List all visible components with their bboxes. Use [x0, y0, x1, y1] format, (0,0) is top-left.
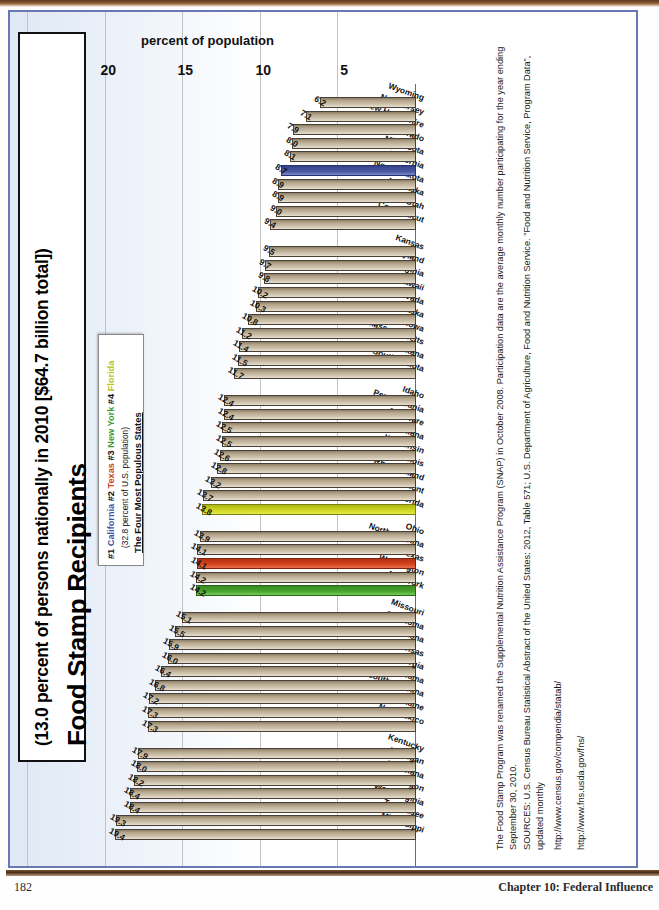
note-url-census: http://www.census.gov/compendia/statab/ [552, 24, 565, 850]
bar-south-dakota [234, 368, 416, 379]
bar-row: 7.1New Jersey [28, 111, 416, 122]
bar-row: 18.4West Virginia [28, 802, 416, 813]
bar-row: 7.9New Hampshire [28, 124, 416, 135]
bar-rhode-island [211, 477, 416, 488]
bar-row: 9.4Connecticut [28, 219, 416, 230]
legend-state-new-york: New York [106, 407, 116, 448]
page-top-edge-decoration [0, 0, 659, 7]
legend-rank-4: #4 [106, 394, 116, 404]
bar-alabama [155, 680, 416, 691]
bar-new-jersey [306, 111, 416, 122]
bar-row: 9.0Utah [28, 206, 416, 217]
bar-illinois [217, 463, 416, 474]
bar-indiana [222, 436, 416, 447]
bar-georgia [161, 666, 416, 677]
bar-kentucky [138, 748, 416, 759]
bar-oklahoma [175, 626, 416, 637]
legend-rank-3: #3 [106, 450, 116, 460]
bar-nevada [256, 301, 416, 312]
bar-delaware [222, 423, 416, 434]
bar-michigan [137, 761, 416, 772]
chart-subtitle: (13.0 percent of persons nationally in 2… [32, 248, 53, 746]
axis-tick-15: 15 [178, 62, 194, 78]
bar-row: 12.5Indiana [28, 436, 416, 447]
page-bottom-rule [6, 870, 659, 876]
chart-rotated-container: 510152025percent of population19.4Missis… [10, 12, 466, 866]
book-page: 510152025percent of population19.4Missis… [0, 0, 659, 910]
bar-florida [202, 504, 416, 515]
bar-row: 10.8Alaska [28, 314, 416, 325]
bar-vermont [203, 490, 416, 501]
chart-title-box: Food Stamp Recipients (13.0 percent of p… [18, 32, 86, 762]
bar-row: 8.7California [28, 165, 416, 176]
bar-idaho [224, 395, 416, 406]
bar-new-mexico [148, 721, 416, 732]
legend-rank-1: #1 [106, 549, 116, 559]
bar-pennsylvania [224, 409, 416, 420]
bar-arizona [169, 639, 416, 650]
legend-rank-2: #2 [106, 491, 116, 501]
bar-oregon [130, 788, 416, 799]
note-url-fns: http://www.fns.usda.gov/fns/ [575, 24, 588, 850]
bar-arkansas [168, 653, 416, 664]
bar-utah [276, 206, 416, 217]
bar-row: 12.5Delaware [28, 423, 416, 434]
bar-row: 10.2Hawaii [28, 287, 416, 298]
bar-row: 18.2Louisiana [28, 775, 416, 786]
bar-texas [197, 558, 416, 569]
note-snap-rename: The Food Stamp Program was renamed the S… [494, 24, 519, 850]
bar-colorado [292, 138, 416, 149]
bar-connecticut [270, 219, 416, 230]
bar-minnesota [290, 152, 416, 163]
bar-row: 18.0Michigan [28, 761, 416, 772]
bar-row: 8.0Colorado [28, 138, 416, 149]
legend-heading: The Four Most Populous States [132, 412, 143, 553]
chart-area: 510152025percent of population19.4Missis… [10, 12, 466, 866]
bar-row: 8.9Nebraska [28, 192, 416, 203]
bar-row: 12.4Idaho [28, 395, 416, 406]
bar-louisiana [134, 775, 416, 786]
legend-state-florida: Florida [106, 361, 116, 392]
bar-north-dakota [278, 179, 416, 190]
bar-row: 12.4Pennsylvania [28, 409, 416, 420]
bar-nebraska [278, 192, 416, 203]
bar-row: 9.7Maryland [28, 260, 416, 271]
bar-virginia [264, 273, 416, 284]
bar-row: 19.4Mississippi [28, 829, 416, 840]
bar-iowa [242, 328, 416, 339]
bar-row: 11.2Iowa [28, 328, 416, 339]
bar-row: 11.7South Dakota [28, 368, 416, 379]
legend-note: (32.8 percent of U.S. population) [120, 427, 130, 548]
bar-wisconsin [220, 450, 416, 461]
chart-legend: The Four Most Populous States (32.8 perc… [98, 334, 144, 566]
chapter-label: Chapter 10: Federal Influence [498, 880, 653, 895]
bar-south-carolina [149, 694, 416, 705]
bar-row: 9.8Virginia [28, 273, 416, 284]
bar-hawaii [258, 287, 416, 298]
bar-montana [238, 355, 416, 366]
legend-items: #1 California #2 Texas #3 New York #4 Fl… [106, 361, 116, 559]
bar-west-virginia [130, 802, 416, 813]
bar-row: 11.4Massachusetts [28, 341, 416, 352]
legend-state-california: California [106, 504, 116, 546]
bar-row: 18.4Oregon [28, 788, 416, 799]
page-number: 182 [14, 880, 32, 895]
bar-row: 8.9North Dakota [28, 179, 416, 190]
bar-new-york [196, 585, 416, 596]
page-title: Food Stamp Recipients [62, 463, 93, 746]
bar-row: 19.3Tennessee [28, 815, 416, 826]
legend-state-texas: Texas [106, 463, 116, 488]
bar-maryland [265, 260, 416, 271]
bar-row: 10.3Nevada [28, 301, 416, 312]
bar-row: 17.9Kentucky [28, 748, 416, 759]
bar-kansas [269, 246, 416, 257]
bar-tennessee [116, 815, 416, 826]
bar-washington [196, 572, 416, 583]
bar-row: 9.5Kansas [28, 246, 416, 257]
bar-row: 11.5Montana [28, 355, 416, 366]
bar-north-carolina [197, 544, 416, 555]
note-sources: SOURCES: U.S. Census Bureau Statistical … [521, 24, 546, 850]
bar-missouri [182, 612, 416, 623]
figure-notes-column: The Food Stamp Program was renamed the S… [474, 12, 654, 860]
bar-row: 6.2Wyoming [28, 97, 416, 108]
